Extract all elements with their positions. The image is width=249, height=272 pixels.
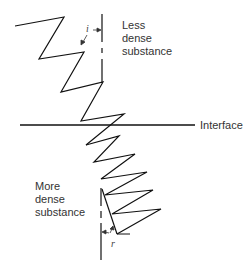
wave-lower	[86, 136, 161, 234]
angle-i-label: i	[86, 23, 89, 34]
more-dense-label: More dense substance	[35, 180, 85, 219]
less-dense-label: Less dense substance	[122, 19, 172, 58]
angle-r-label: r	[111, 238, 115, 249]
angle-i-arrows	[81, 28, 101, 45]
refracted-ray	[102, 189, 117, 234]
angle-r-arrows	[102, 226, 114, 234]
interface-label: Interface	[200, 119, 243, 132]
wave-upper	[15, 17, 124, 145]
